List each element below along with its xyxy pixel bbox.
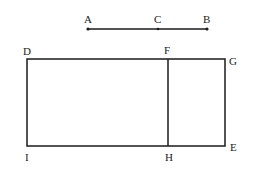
point-c-dot bbox=[157, 28, 160, 31]
geometry-diagram: A C B D F G E H I bbox=[0, 0, 253, 173]
rect-outline bbox=[27, 59, 225, 146]
label-a: A bbox=[84, 13, 92, 25]
label-f: F bbox=[164, 44, 170, 56]
point-b-dot bbox=[205, 27, 208, 30]
label-h: H bbox=[165, 151, 173, 163]
label-g: G bbox=[229, 55, 237, 67]
rectangle-dgei: D F G E H I bbox=[23, 44, 237, 163]
segment-ab: A C B bbox=[84, 13, 210, 31]
label-e: E bbox=[230, 141, 237, 153]
label-i: I bbox=[25, 151, 29, 163]
label-d: D bbox=[23, 45, 31, 57]
point-a-dot bbox=[86, 27, 89, 30]
label-c: C bbox=[154, 13, 161, 25]
label-b: B bbox=[203, 13, 210, 25]
